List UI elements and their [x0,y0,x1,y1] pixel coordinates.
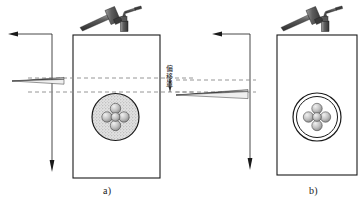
figure-canvas: 偏移量 a) b) [0,0,363,207]
panel-b-caption: b) [309,185,318,196]
center-punch-icon [322,6,343,32]
punch-mark-bottom [312,120,322,130]
punch-mark-center [111,113,120,122]
punch-mark-right [119,112,129,122]
panel-a [8,6,196,178]
punch-mark-left [303,112,313,122]
technical-diagram [0,0,363,207]
hammer-icon [281,7,324,32]
offset-label: 偏移量 [163,66,175,89]
left-arrow [8,32,52,37]
down-arrow [50,34,55,172]
panel-a-caption: a) [103,185,111,196]
center-punch-icon [121,6,142,32]
punch-mark-top [312,103,322,113]
punch-mark-right [320,112,330,122]
punch-mark-center [313,113,322,122]
down-arrow [248,34,253,170]
punch-mark-bottom [110,120,120,130]
scriber-icon [176,90,248,99]
hammer-icon [80,7,123,32]
punch-mark-top [110,103,120,113]
left-arrow [212,32,250,37]
punch-mark-left [102,112,112,122]
panel-b [176,6,357,175]
